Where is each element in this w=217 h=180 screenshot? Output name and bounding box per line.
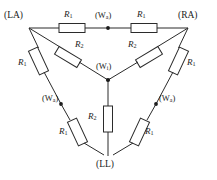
inner-branch-ll	[104, 78, 113, 156]
terminal-label-la: (LA)	[4, 11, 23, 21]
tap-label-wi-center-open: (W	[96, 61, 107, 71]
resistor-center-left-body	[55, 46, 82, 67]
resistor-left-upper-body	[28, 47, 48, 75]
wire-centerright-res-to-wi	[108, 62, 138, 80]
wire-rightlower-res-to-ll	[113, 143, 133, 155]
tap-label-wa-right-open: (W	[159, 93, 170, 103]
tap-label-wi-center: (Wi)	[96, 62, 111, 72]
resistor-label-right-upper: R1	[187, 58, 196, 67]
center-node-dot-wi	[106, 78, 110, 82]
tap-label-wa-left: (Wa)	[42, 94, 58, 104]
resistor-network-figure: (LA) (RA) (LL) (Wa) (Wa) (Wa) (Wi) R1 R1…	[0, 0, 217, 180]
resistor-label-top-left-sub: 1	[70, 13, 73, 19]
resistor-label-center-left-sub: 2	[81, 43, 84, 49]
resistor-label-left-lower: R1	[59, 127, 68, 136]
tap-label-wa-left-open: (W	[42, 93, 53, 103]
tap-label-wi-center-close: )	[109, 61, 112, 71]
resistor-label-left-lower-sub: 1	[65, 130, 68, 136]
tap-label-wa-top-close: )	[109, 10, 112, 20]
wire-wa-to-leftlower-res	[61, 104, 70, 120]
tap-label-wa-left-close: )	[56, 93, 59, 103]
resistor-label-center-left: R2	[75, 40, 84, 49]
resistor-right-upper-body	[168, 47, 188, 75]
resistor-label-left-upper-sub: 1	[24, 61, 27, 67]
resistor-label-top-right-sub: 1	[143, 13, 146, 19]
tap-dot-wa-top	[106, 26, 110, 30]
resistor-label-center-right-sub: 2	[134, 43, 137, 49]
wire-wa-to-rightlower-res	[147, 104, 156, 120]
resistor-top-left-body	[59, 24, 85, 33]
resistor-center-down-body	[104, 106, 113, 132]
terminal-label-ll: (LL)	[96, 160, 114, 170]
resistor-label-left-upper: R1	[18, 58, 27, 67]
tap-label-wa-right: (Wa)	[159, 94, 175, 104]
resistor-center-right-body	[136, 46, 163, 67]
tap-label-wa-right-close: )	[173, 93, 176, 103]
schematic-canvas	[0, 0, 217, 180]
resistor-label-center-right: R2	[128, 40, 137, 49]
top-branch	[29, 24, 188, 33]
resistor-left-lower-body	[67, 118, 87, 146]
resistor-label-center-down: R2	[88, 112, 97, 121]
resistor-top-right-body	[131, 24, 157, 33]
resistor-label-right-lower: R1	[145, 127, 154, 136]
wire-leftlower-res-to-ll	[84, 143, 104, 155]
resistor-label-right-lower-sub: 1	[151, 130, 154, 136]
terminal-label-ra: (RA)	[178, 11, 198, 21]
tap-label-wa-top-open: (W	[95, 10, 106, 20]
tap-label-wa-top: (Wa)	[95, 11, 111, 21]
resistor-label-center-down-sub: 2	[94, 115, 97, 121]
resistor-label-top-left: R1	[64, 10, 73, 19]
resistor-label-top-right: R1	[137, 10, 146, 19]
resistor-label-right-upper-sub: 1	[193, 61, 196, 67]
